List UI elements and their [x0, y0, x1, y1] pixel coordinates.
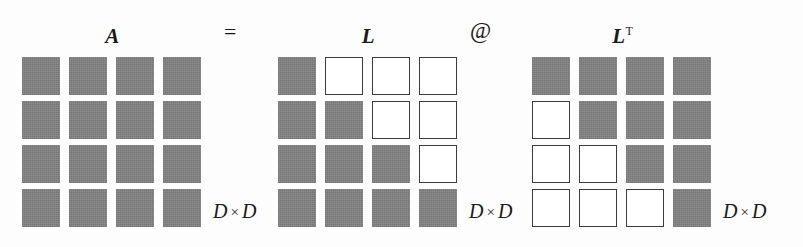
dimension-symbol-l-row: D	[469, 200, 483, 222]
matrix-cell	[626, 189, 664, 227]
matrix-cell	[673, 145, 711, 183]
matrix-cell	[532, 57, 570, 95]
dimension-times-lt: ×	[737, 204, 751, 220]
dimension-symbol-a-col: D	[242, 200, 256, 222]
matrix-cell	[372, 189, 410, 227]
dimension-label-l: D×D	[469, 199, 512, 224]
matrix-cell	[673, 101, 711, 139]
matrix-grid-a	[22, 57, 201, 227]
matrix-cell	[325, 57, 363, 95]
matrix-cell	[419, 57, 457, 95]
matrix-cell	[278, 101, 316, 139]
dimension-symbol-l-col: D	[498, 200, 512, 222]
matrix-cell	[69, 145, 107, 183]
matrix-cell	[579, 57, 617, 95]
matrix-cell	[419, 145, 457, 183]
matrix-cell	[626, 57, 664, 95]
matrix-cell	[325, 189, 363, 227]
matrix-cell	[163, 57, 201, 95]
dimension-times-a: ×	[227, 204, 241, 220]
matrix-cell	[372, 101, 410, 139]
dimension-label-l-transpose: D×D	[723, 199, 766, 224]
matrix-cell	[325, 145, 363, 183]
matrix-cell	[372, 145, 410, 183]
cholesky-decomposition-figure: A D×D = L D×D @ LT D×D	[0, 0, 803, 247]
matrix-cell	[579, 189, 617, 227]
matrix-cell	[278, 57, 316, 95]
matrix-label-a-text: A	[105, 24, 120, 48]
matmul-operator: @	[470, 20, 491, 42]
matrix-grid-l	[278, 57, 457, 227]
matrix-cell	[116, 189, 154, 227]
matrix-cell	[163, 101, 201, 139]
matrix-cell	[116, 101, 154, 139]
matrix-cell	[69, 57, 107, 95]
matrix-cell	[325, 101, 363, 139]
matrix-label-a: A	[22, 18, 203, 49]
matrix-cell	[579, 145, 617, 183]
matrix-cell	[116, 57, 154, 95]
matrix-cell	[419, 101, 457, 139]
matrix-cell	[372, 57, 410, 95]
matrix-cell	[116, 145, 154, 183]
matrix-cell	[673, 57, 711, 95]
equals-operator: =	[224, 21, 236, 43]
matrix-cell	[626, 145, 664, 183]
matrix-cell	[163, 145, 201, 183]
matrix-cell	[163, 189, 201, 227]
matrix-label-lt-superscript: T	[625, 24, 632, 38]
dimension-symbol-lt-col: D	[752, 200, 766, 222]
matrix-cell	[22, 145, 60, 183]
matrix-cell	[22, 57, 60, 95]
dimension-times-l: ×	[483, 204, 497, 220]
matrix-cell	[278, 145, 316, 183]
matrix-cell	[419, 189, 457, 227]
matrix-cell	[22, 101, 60, 139]
matrix-cell	[532, 101, 570, 139]
matrix-label-l: L	[278, 18, 459, 49]
matrix-cell	[22, 189, 60, 227]
matrix-cell	[626, 101, 664, 139]
matrix-label-l-transpose: LT	[532, 18, 713, 49]
matrix-label-l-text: L	[362, 24, 375, 48]
matrix-cell	[532, 145, 570, 183]
matrix-label-lt-text: L	[612, 24, 625, 48]
dimension-label-a: D×D	[213, 199, 256, 224]
matrix-cell	[673, 189, 711, 227]
matrix-cell	[532, 189, 570, 227]
dimension-symbol-lt-row: D	[723, 200, 737, 222]
matrix-grid-l-transpose	[532, 57, 711, 227]
matrix-cell	[69, 101, 107, 139]
matrix-cell	[579, 101, 617, 139]
matrix-cell	[69, 189, 107, 227]
dimension-symbol-a-row: D	[213, 200, 227, 222]
matrix-cell	[278, 189, 316, 227]
